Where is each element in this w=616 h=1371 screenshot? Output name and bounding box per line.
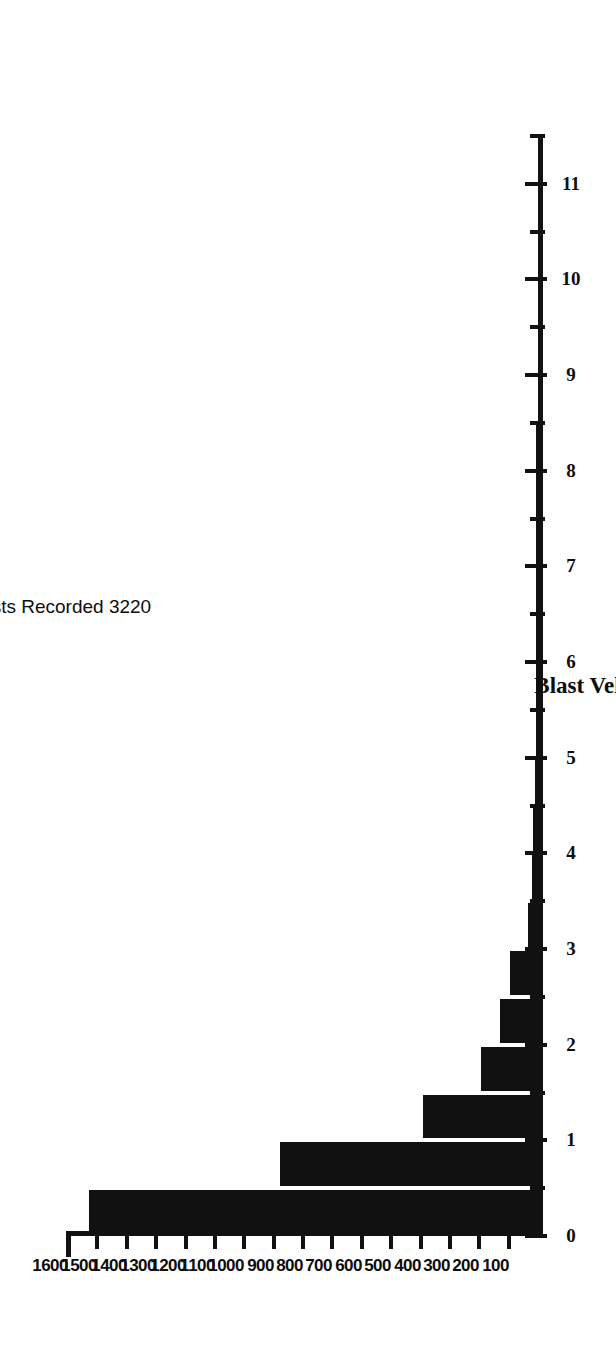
value-tick bbox=[66, 1231, 71, 1257]
category-tick bbox=[530, 420, 545, 424]
category-tick-label: 0 bbox=[566, 1225, 576, 1247]
bar bbox=[536, 568, 538, 612]
value-tick-label: 500 bbox=[364, 1256, 391, 1276]
bar bbox=[423, 1094, 538, 1138]
category-tick-label: 9 bbox=[566, 364, 576, 386]
category-tick bbox=[525, 1138, 547, 1142]
category-tick bbox=[525, 660, 547, 664]
category-tick bbox=[525, 755, 547, 759]
category-tick bbox=[525, 947, 547, 951]
bar bbox=[535, 759, 538, 803]
bar bbox=[533, 807, 538, 851]
bar bbox=[280, 1142, 539, 1186]
category-tick bbox=[530, 516, 545, 520]
value-tick-label: 100 bbox=[482, 1256, 509, 1276]
category-tick bbox=[530, 1186, 545, 1190]
category-tick-label: 2 bbox=[566, 1033, 576, 1055]
category-tick-label: 10 bbox=[562, 268, 581, 290]
bar bbox=[536, 711, 538, 755]
value-tick-label: 600 bbox=[335, 1256, 362, 1276]
category-tick bbox=[525, 277, 547, 281]
category-tick bbox=[525, 564, 547, 568]
x-axis-title: Blast Velocity mm/sec bbox=[534, 673, 616, 699]
bar bbox=[536, 424, 538, 468]
category-tick bbox=[530, 325, 545, 329]
category-tick bbox=[525, 468, 547, 472]
category-tick-label: 8 bbox=[566, 459, 576, 481]
category-tick bbox=[525, 1234, 547, 1238]
category-tick-label: 1 bbox=[566, 1129, 576, 1151]
bar bbox=[510, 951, 538, 995]
category-tick bbox=[530, 899, 545, 903]
category-tick bbox=[530, 134, 545, 138]
rotated-chart-stage: 01234567891011 1002003004005006007008009… bbox=[68, 136, 548, 1236]
category-tick bbox=[525, 1042, 547, 1046]
value-tick-label: 200 bbox=[452, 1256, 479, 1276]
category-tick-label: 6 bbox=[566, 651, 576, 673]
chart-figure: 01234567891011 1002003004005006007008009… bbox=[0, 0, 616, 1371]
bar bbox=[536, 472, 538, 516]
category-tick-label: 5 bbox=[566, 746, 576, 768]
category-tick bbox=[530, 707, 545, 711]
value-tick-label: 700 bbox=[306, 1256, 333, 1276]
category-tick bbox=[530, 612, 545, 616]
category-tick-label: 7 bbox=[566, 555, 576, 577]
total-blasts-annotation: Total number of Blasts Recorded 3220 bbox=[0, 596, 151, 618]
bar bbox=[500, 998, 538, 1042]
bar bbox=[89, 1190, 538, 1234]
category-tick-label: 3 bbox=[566, 938, 576, 960]
bar bbox=[532, 855, 538, 899]
bar bbox=[536, 520, 538, 564]
category-tick bbox=[530, 803, 545, 807]
plot-area: 01234567891011 1002003004005006007008009… bbox=[68, 136, 548, 1236]
category-tick bbox=[530, 229, 545, 233]
category-tick-label: 4 bbox=[566, 842, 576, 864]
value-tick-label: 800 bbox=[276, 1256, 303, 1276]
bar bbox=[536, 616, 538, 660]
value-tick-label: 300 bbox=[423, 1256, 450, 1276]
category-tick bbox=[525, 181, 547, 185]
category-tick bbox=[530, 994, 545, 998]
bar bbox=[481, 1046, 538, 1090]
bar bbox=[528, 903, 538, 947]
value-tick-label: 1600 bbox=[32, 1256, 68, 1276]
category-tick bbox=[525, 373, 547, 377]
value-tick-label: 900 bbox=[247, 1256, 274, 1276]
value-tick-label: 400 bbox=[394, 1256, 421, 1276]
category-tick bbox=[530, 1090, 545, 1094]
category-tick-label: 11 bbox=[562, 172, 580, 194]
category-tick bbox=[525, 851, 547, 855]
